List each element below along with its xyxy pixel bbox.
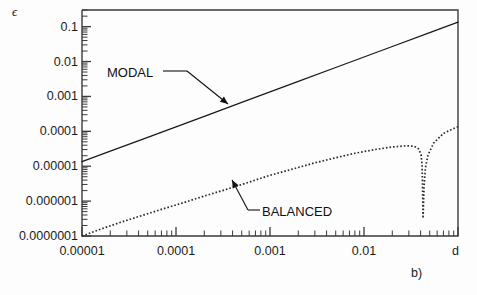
series-layer [82,22,458,236]
plot-area [0,0,477,295]
axes-layer [82,10,458,236]
series-line-modal [82,22,458,162]
annotation-leaders [163,71,260,210]
series-line-balanced [82,127,458,236]
figure-container: ϵ 0.10.010.0010.00010.000010.0000010.000… [0,0,477,295]
